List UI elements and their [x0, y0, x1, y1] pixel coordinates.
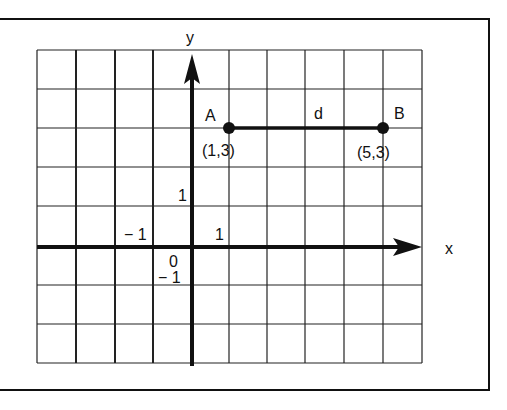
- x-axis-label: x: [445, 241, 453, 257]
- segment-label: d: [314, 106, 323, 122]
- point-b-coords: (5,3): [357, 145, 390, 161]
- grid: [37, 50, 422, 363]
- origin-label: 0: [169, 254, 178, 270]
- point-a-marker-icon: [223, 122, 235, 134]
- y-tick-1: 1: [178, 188, 187, 204]
- point-a-coords: (1,3): [202, 143, 235, 159]
- point-b-marker-icon: [377, 122, 389, 134]
- x-tick-neg1: − 1: [124, 227, 147, 243]
- y-tick-neg1: − 1: [158, 270, 181, 286]
- y-axis-label: y: [186, 30, 194, 46]
- point-b-label: B: [394, 106, 405, 122]
- point-a-label: A: [205, 108, 216, 124]
- x-tick-1: 1: [215, 227, 224, 243]
- segment-AB: [223, 122, 389, 134]
- coordinate-plane: [0, 0, 507, 410]
